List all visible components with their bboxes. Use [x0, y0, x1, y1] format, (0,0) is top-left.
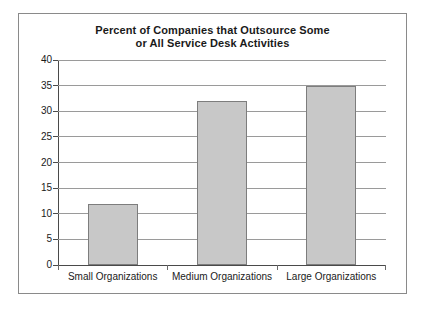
y-axis-tick-label: 25	[28, 132, 52, 142]
y-axis-tick-label: 35	[28, 81, 52, 91]
y-axis-tick	[53, 136, 58, 137]
y-axis-tick	[53, 111, 58, 112]
y-axis-tick-label: 5	[28, 234, 52, 244]
x-axis-category-labels: Small OrganizationsMedium OrganizationsL…	[58, 265, 386, 291]
y-axis-tick-label: 15	[28, 183, 52, 193]
y-axis-tick	[53, 213, 58, 214]
x-axis-separator-tick	[167, 265, 168, 270]
bar	[88, 204, 138, 266]
y-axis-tick	[53, 60, 58, 61]
bar	[306, 86, 356, 265]
gridline	[58, 60, 386, 61]
plot-area	[58, 60, 386, 265]
y-axis-tick	[53, 85, 58, 86]
y-axis-tick-label: 30	[28, 106, 52, 116]
chart-title-line-1: Percent of Companies that Outsource Some	[18, 24, 407, 37]
y-axis-tick-label: 0	[28, 260, 52, 270]
x-axis-separator-tick	[277, 265, 278, 270]
y-axis-tick-label: 10	[28, 209, 52, 219]
y-axis-tick-labels: 0510152025303540	[24, 60, 52, 265]
x-axis-separator-tick	[58, 265, 59, 270]
y-axis-tick	[53, 188, 58, 189]
chart-title: Percent of Companies that Outsource Some…	[18, 13, 407, 50]
y-axis-tick	[53, 162, 58, 163]
bar	[197, 101, 247, 265]
x-axis-separator-tick	[385, 265, 386, 270]
chart-figure: Percent of Companies that Outsource Some…	[0, 0, 427, 311]
y-axis-tick	[53, 239, 58, 240]
x-axis-category-label: Large Organizations	[277, 271, 386, 283]
x-axis-category-label: Small Organizations	[58, 271, 167, 283]
y-axis-tick-label: 20	[28, 158, 52, 168]
chart-title-line-2: or All Service Desk Activities	[18, 37, 407, 50]
x-axis-category-label: Medium Organizations	[167, 271, 276, 283]
y-axis-tick-label: 40	[28, 55, 52, 65]
